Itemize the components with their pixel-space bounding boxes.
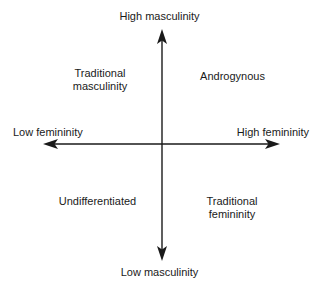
quadrant-label-line-2: masculinity <box>73 80 127 92</box>
quadrant-label-traditional-masculinity: Traditional masculinity <box>50 67 150 93</box>
axis-label-low-femininity: Low femininity <box>13 126 83 139</box>
axis-label-low-masculinity: Low masculinity <box>0 266 319 279</box>
gender-role-quadrant-diagram: High masculinity Low masculinity Low fem… <box>0 0 319 289</box>
quadrant-label-line-2: femininity <box>209 208 255 220</box>
quadrant-label-androgynous: Androgynous <box>175 70 290 83</box>
axes-group <box>0 0 319 289</box>
quadrant-label-line-1: Traditional <box>75 67 126 79</box>
masculinity-axis <box>157 29 167 261</box>
quadrant-label-line-1: Traditional <box>207 195 258 207</box>
axis-label-high-femininity: High femininity <box>190 126 309 139</box>
quadrant-label-undifferentiated: Undifferentiated <box>45 195 150 208</box>
quadrant-label-traditional-femininity: Traditional femininity <box>182 195 282 221</box>
axis-label-high-masculinity: High masculinity <box>0 10 319 23</box>
